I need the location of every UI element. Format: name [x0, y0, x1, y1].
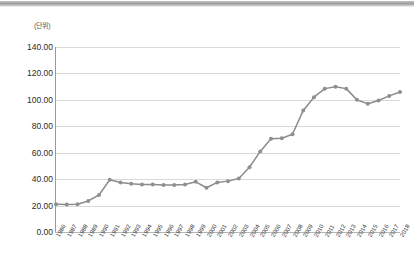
data-point-marker — [323, 87, 327, 91]
data-point-marker — [258, 149, 262, 153]
data-point-marker — [248, 165, 252, 169]
series-line — [56, 87, 400, 205]
data-point-marker — [54, 202, 58, 206]
data-point-marker — [312, 95, 316, 99]
data-point-marker — [280, 136, 284, 140]
data-point-marker — [237, 176, 241, 180]
data-point-marker — [194, 180, 198, 184]
data-point-marker — [108, 178, 112, 182]
data-series-svg — [0, 7, 414, 263]
data-point-marker — [205, 186, 209, 190]
data-point-marker — [215, 180, 219, 184]
data-point-marker — [269, 137, 273, 141]
data-point-marker — [151, 182, 155, 186]
data-point-marker — [162, 183, 166, 187]
data-point-marker — [355, 98, 359, 102]
data-point-marker — [301, 108, 305, 112]
data-point-marker — [398, 90, 402, 94]
data-point-marker — [119, 180, 123, 184]
data-point-marker — [65, 203, 69, 207]
data-point-marker — [291, 132, 295, 136]
data-point-marker — [334, 85, 338, 89]
data-point-marker — [226, 179, 230, 183]
data-point-marker — [86, 199, 90, 203]
window-top-bar — [0, 0, 414, 7]
data-point-marker — [172, 183, 176, 187]
data-point-marker — [76, 202, 80, 206]
data-point-marker — [140, 182, 144, 186]
data-point-marker — [129, 182, 133, 186]
line-chart-figure: (단위) 140.00120.00100.0080.0060.0040.0020… — [0, 7, 414, 263]
data-point-marker — [366, 102, 370, 106]
data-point-marker — [183, 182, 187, 186]
data-point-marker — [377, 99, 381, 103]
data-point-marker — [97, 193, 101, 197]
data-point-marker — [387, 94, 391, 98]
data-point-marker — [344, 87, 348, 91]
